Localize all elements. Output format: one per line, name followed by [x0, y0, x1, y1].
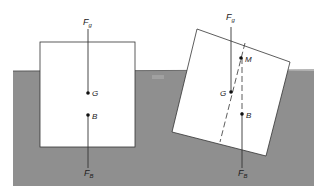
buoyancy-diagram: Fg G B FB Fg M G B FB: [0, 0, 323, 194]
center-of-buoyancy-point: [86, 113, 90, 117]
point-g-label: G: [220, 89, 226, 98]
point-g-label: G: [92, 89, 98, 98]
point-b-label: B: [246, 111, 252, 120]
force-gravity-label: Fg: [226, 12, 236, 23]
point-b-label: B: [92, 112, 98, 121]
center-of-buoyancy-point: [240, 112, 244, 116]
force-gravity-label: Fg: [83, 17, 93, 28]
center-of-gravity-point: [229, 90, 233, 94]
metacenter-point: [239, 56, 243, 60]
point-m-label: M: [245, 55, 252, 64]
center-of-gravity-point: [86, 91, 90, 95]
